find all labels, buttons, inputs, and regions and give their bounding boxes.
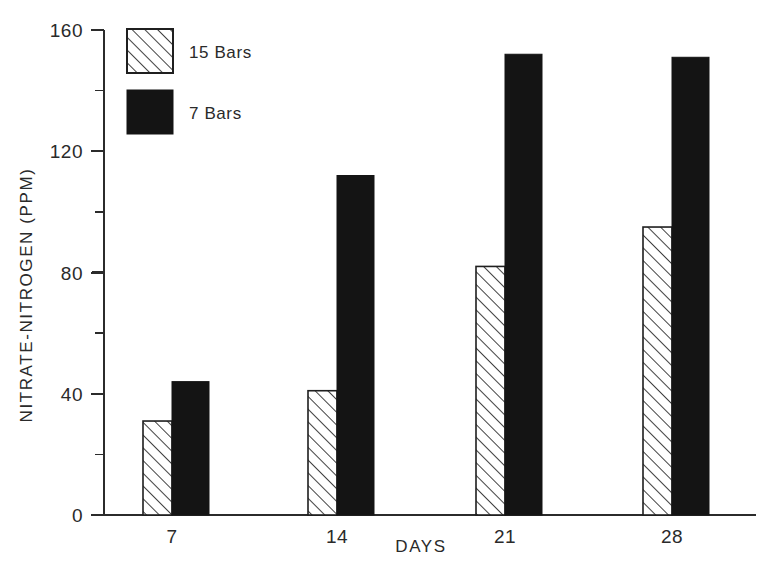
x-tick-label-14: 14: [326, 526, 348, 547]
bar-15-bars-day-14: [308, 391, 337, 515]
y-tick-label-160: 160: [50, 20, 83, 41]
y-tick-label-120: 120: [50, 141, 83, 162]
y-tick-label-80: 80: [61, 263, 83, 284]
bar-15-bars-day-28: [643, 227, 672, 515]
bar-7-bars-day-7: [172, 382, 209, 515]
bar-15-bars-day-7: [143, 421, 172, 515]
legend-swatch-15-bars: [127, 29, 173, 73]
bar-7-bars-day-21: [505, 54, 542, 515]
chart-canvas: 04080120160 7142128 DAYS NITRATE-NITROGE…: [0, 0, 776, 568]
bar-7-bars-day-28: [672, 57, 709, 515]
legend-label-15-bars: 15 Bars: [189, 43, 252, 62]
legend-label-7-bars: 7 Bars: [189, 104, 242, 123]
x-tick-label-28: 28: [661, 526, 683, 547]
bar-7-bars-day-14: [337, 176, 374, 516]
bar-15-bars-day-21: [476, 266, 505, 515]
y-tick-label-40: 40: [61, 384, 83, 405]
x-axis-title: DAYS: [395, 537, 446, 556]
legend-swatch-7-bars: [127, 90, 173, 134]
x-tick-label-7: 7: [166, 526, 177, 547]
y-tick-label-0: 0: [72, 505, 83, 526]
y-axis-title: NITRATE-NITROGEN (PPM): [17, 168, 36, 423]
bar-chart-figure: 04080120160 7142128 DAYS NITRATE-NITROGE…: [0, 0, 776, 568]
x-tick-label-21: 21: [494, 526, 516, 547]
